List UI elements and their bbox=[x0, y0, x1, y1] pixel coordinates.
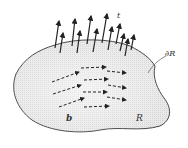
label-region: R bbox=[135, 113, 143, 123]
traction-arrow-icon bbox=[116, 24, 120, 44]
continuum-body-diagram: t ∂R b R bbox=[0, 0, 188, 148]
traction-arrow-icon bbox=[102, 14, 107, 43]
label-boundary: ∂R bbox=[165, 49, 175, 58]
label-body-force: b bbox=[66, 113, 72, 123]
label-traction: t bbox=[117, 11, 121, 20]
